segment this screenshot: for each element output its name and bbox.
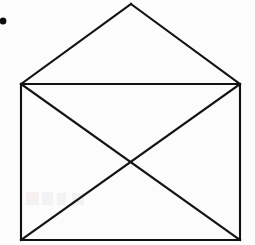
drawing-canvas [0,0,255,245]
faint-bleed-mark-3 [57,193,66,205]
ghost-artifact-group [26,192,84,205]
ink-dot-mark [0,17,6,24]
faint-bleed-mark-1 [26,192,39,205]
envelope-figure [0,0,255,245]
envelope-flap-right-edge [131,4,240,84]
faint-bleed-mark-2 [42,192,53,205]
envelope-flap-left-edge [21,4,131,84]
